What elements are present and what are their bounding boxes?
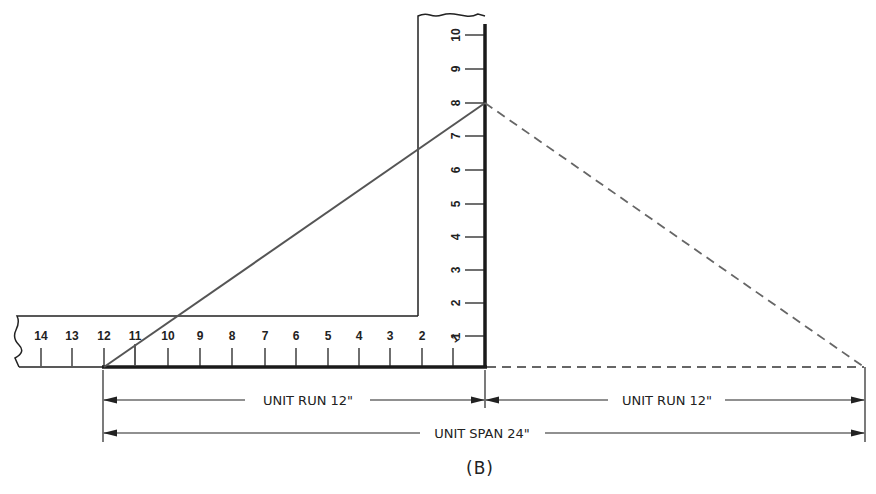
tongue-mark-4: 4: [449, 233, 463, 240]
blade-mark-8: 8: [229, 329, 236, 343]
framing-square-diagram: 14 13 12 11 10 9 8 7 6 5 4 3 2 1 1 2 3 4…: [0, 0, 876, 494]
blade-mark-14: 14: [34, 329, 48, 343]
blade-mark-11: 11: [129, 329, 142, 343]
unit-span-label: UNIT SPAN 24": [434, 426, 530, 441]
blade-mark-2: 2: [419, 329, 426, 343]
unit-run-right-label: UNIT RUN 12": [622, 393, 712, 408]
blade-mark-12: 12: [97, 329, 111, 343]
tongue-mark-5: 5: [449, 200, 463, 207]
blade-mark-3: 3: [387, 329, 394, 343]
figure-caption: (B): [466, 458, 494, 478]
blade-mark-9: 9: [197, 329, 204, 343]
blade-mark-5: 5: [325, 329, 332, 343]
tongue-mark-7: 7: [449, 132, 463, 139]
blade-numbers: 14 13 12 11 10 9 8 7 6 5 4 3 2 1: [34, 329, 462, 346]
tongue-mark-6: 6: [449, 166, 463, 173]
blade-mark-4: 4: [356, 329, 363, 343]
tongue-mark-10: 10: [449, 28, 463, 42]
dimension-unit-run-left: UNIT RUN 12": [104, 393, 484, 408]
blade-scale: [41, 344, 453, 366]
dimension-unit-span: UNIT SPAN 24": [104, 426, 864, 441]
mirror-rafter: [485, 103, 864, 367]
tongue-mark-3: 3: [449, 266, 463, 273]
blade-mark-13: 13: [65, 329, 79, 343]
framing-square: [15, 14, 485, 367]
tongue-mark-8: 8: [449, 99, 463, 106]
tongue-mark-2: 2: [449, 299, 463, 306]
rafter-slope-line: [104, 103, 485, 367]
unit-run-left-label: UNIT RUN 12": [263, 393, 353, 408]
dimension-unit-run-right: UNIT RUN 12": [486, 393, 864, 408]
blade-mark-6: 6: [293, 329, 300, 343]
tongue-mark-1: 1: [449, 332, 463, 339]
blade-mark-7: 7: [262, 329, 269, 343]
tongue-scale: [465, 35, 484, 336]
tongue-numbers: 1 2 3 4 5 6 7 8 9 10: [449, 28, 463, 339]
blade-mark-10: 10: [161, 329, 175, 343]
tongue-mark-9: 9: [449, 65, 463, 72]
dashed-rafter-line: [485, 103, 864, 367]
